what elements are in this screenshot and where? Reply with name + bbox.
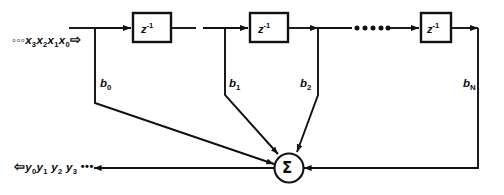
coefficient-label-b0: b0: [100, 78, 111, 92]
output-sample-y2: y2: [51, 161, 62, 173]
delay-1-exponent: -1: [147, 21, 154, 30]
delay-block-1-label: z-1: [141, 22, 153, 35]
input-sample-x2: x2: [36, 34, 47, 46]
b2-subscript: 2: [307, 83, 311, 92]
output-arrow-icon: ⇦: [14, 159, 25, 174]
input-sample-x0: x0: [59, 34, 70, 46]
b1-subscript: 1: [236, 83, 240, 92]
coefficient-label-bn: bN: [463, 78, 476, 92]
output-trailing-dots: •••: [81, 160, 94, 172]
b0-subscript: 0: [107, 83, 111, 92]
coefficient-label-b1: b1: [229, 78, 240, 92]
branch-b0: [95, 28, 274, 164]
coefficient-label-b2: b2: [300, 78, 311, 92]
delay-n-exponent: -1: [433, 21, 440, 30]
input-arrow-icon: ⇨: [70, 32, 81, 47]
delay-block-2-label: z-1: [258, 22, 270, 35]
input-sample-x1: x1: [48, 34, 59, 46]
input-sequence-label: ◦◦◦x3x2x1x0⇨: [12, 33, 81, 49]
b2-base: b: [300, 77, 307, 89]
bn-subscript: N: [470, 83, 476, 92]
output-sample-y1: y1: [37, 161, 48, 173]
output-sample-y3: y3: [66, 161, 77, 173]
delay-block-n-label: z-1: [427, 22, 439, 35]
b0-base: b: [100, 77, 107, 89]
input-sample-x3: x3: [25, 34, 36, 46]
output-sample-y0: y0: [25, 161, 36, 173]
branch-bn: [304, 28, 478, 168]
signal-path-ellipsis: [355, 26, 391, 31]
delay-2-exponent: -1: [264, 21, 271, 30]
summation-symbol: Σ: [282, 161, 292, 176]
figure-canvas: ◦◦◦x3x2x1x0⇨ ⇦y0y1 y2 y3 ••• z-1 z-1 z-1…: [0, 0, 504, 195]
output-sequence-label: ⇦y0y1 y2 y3 •••: [14, 160, 94, 176]
bn-base: b: [463, 77, 470, 89]
input-leading-dots: ◦◦◦: [12, 34, 25, 46]
b1-base: b: [229, 77, 236, 89]
